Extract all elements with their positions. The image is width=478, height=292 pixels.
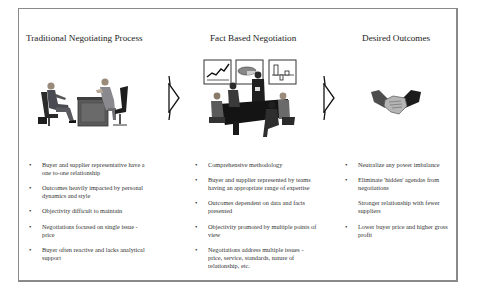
list-item: •Comprehensive methodology bbox=[195, 161, 317, 169]
bullet-icon: • bbox=[195, 223, 197, 231]
two-person-meeting-illustration bbox=[36, 78, 136, 130]
list-item: •Lower buyer price and higher gross prof… bbox=[345, 223, 455, 239]
bullet-icon: • bbox=[29, 184, 31, 192]
list-item: •Buyer often reactive and lacks analytic… bbox=[29, 246, 151, 262]
list-item: •Buyer and supplier representative have … bbox=[29, 161, 151, 177]
list-item: •Negotiations focused on single issue - … bbox=[29, 223, 151, 239]
bullet-icon: • bbox=[195, 161, 197, 169]
desired-outcomes-bullet-list: •Neutralize any power imbalance •Elimina… bbox=[345, 161, 455, 246]
bullet-icon: • bbox=[345, 176, 347, 184]
bullet-icon: • bbox=[345, 223, 347, 231]
fact-based-bullet-list: •Comprehensive methodology •Buyer and su… bbox=[195, 161, 317, 277]
traditional-bullet-list: •Buyer and supplier representative have … bbox=[29, 161, 151, 269]
heading-traditional: Traditional Negotiating Process bbox=[26, 33, 143, 43]
list-item: •Stronger relationship with fewer suppli… bbox=[345, 199, 455, 215]
bullet-icon: • bbox=[29, 207, 31, 215]
list-item: •Outcomes heavily impacted by personal d… bbox=[29, 184, 151, 200]
bullet-icon: • bbox=[345, 161, 347, 169]
list-item: •Eliminate 'hidden' agendas from negotia… bbox=[345, 176, 455, 192]
heading-desired-outcomes: Desired Outcomes bbox=[362, 33, 430, 43]
chevron-arrow-right-icon bbox=[322, 75, 336, 121]
bullet-icon: • bbox=[29, 223, 31, 231]
chevron-arrow-right-icon bbox=[167, 75, 181, 121]
list-item: •Objectivity difficult to maintain bbox=[29, 207, 151, 215]
list-item: •Negotiations address multiple issues - … bbox=[195, 246, 317, 270]
bullet-icon: • bbox=[29, 246, 31, 254]
team-meeting-illustration bbox=[203, 59, 305, 139]
list-item: •Buyer and supplier represented by teams… bbox=[195, 176, 317, 192]
bullet-icon: • bbox=[29, 161, 31, 169]
bullet-icon: • bbox=[195, 246, 197, 254]
bullet-icon: • bbox=[195, 176, 197, 184]
heading-fact-based: Fact Based Negotiation bbox=[210, 33, 296, 43]
list-item: •Outcomes dependent on data and facts pr… bbox=[195, 199, 317, 215]
handshake-illustration bbox=[371, 88, 421, 120]
list-item: •Neutralize any power imbalance bbox=[345, 161, 455, 169]
bullet-icon: • bbox=[195, 199, 197, 207]
list-item: •Objectivity promoted by multiple points… bbox=[195, 223, 317, 239]
